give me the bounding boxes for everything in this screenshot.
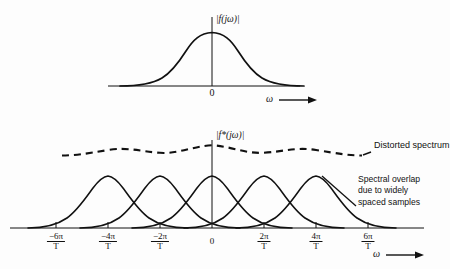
top-plot-y-axis-label: |f(jω)| <box>216 14 240 24</box>
tick-denominator: T <box>309 241 322 251</box>
tick-label-zero: 0 <box>208 231 217 249</box>
annotation-line-2: due to widely <box>358 185 420 196</box>
tick-numerator: 4π <box>309 232 322 241</box>
top-plot-origin-label: 0 <box>210 88 215 99</box>
replica-curve-minus-4pi <box>28 176 188 228</box>
distorted-spectrum-label: Distorted spectrum <box>374 141 450 150</box>
tick-label-minus-2pi: −2π T <box>151 231 169 251</box>
bottom-plot-omega-arrow-icon <box>386 252 424 259</box>
tick-numerator: 2π <box>257 232 270 241</box>
tick-denominator: T <box>151 241 169 251</box>
tick-numerator: 0 <box>208 237 217 246</box>
tick-label-plus-2pi: 2π T <box>257 231 270 251</box>
bottom-plot-omega-label: ω <box>373 248 380 259</box>
replica-curve-plus-2pi <box>184 176 344 228</box>
top-plot-omega-label: ω <box>266 93 273 104</box>
tick-denominator: T <box>47 241 65 251</box>
tick-denominator: T <box>257 241 270 251</box>
spectral-overlap-annotation: Spectral overlap due to widely spaced sa… <box>358 174 420 208</box>
annotation-line-3: spaced samples <box>358 197 420 208</box>
distorted-spectrum-leader <box>363 152 371 155</box>
spectral-overlap-leader <box>322 176 356 206</box>
tick-numerator: −2π <box>151 232 169 241</box>
tick-label-minus-6pi: −6π T <box>47 231 65 251</box>
tick-numerator: −4π <box>99 232 117 241</box>
tick-numerator: 6π <box>361 232 374 241</box>
top-plot-omega-arrow-icon <box>279 97 317 104</box>
bottom-plot-y-axis-label: |f*(jω)| <box>216 130 244 140</box>
tick-numerator: −6π <box>47 232 65 241</box>
tick-label-plus-4pi: 4π T <box>309 231 322 251</box>
replica-curve-minus-2pi <box>80 176 240 228</box>
tick-denominator: T <box>99 241 117 251</box>
tick-label-minus-4pi: −4π T <box>99 231 117 251</box>
annotation-line-1: Spectral overlap <box>358 174 420 185</box>
